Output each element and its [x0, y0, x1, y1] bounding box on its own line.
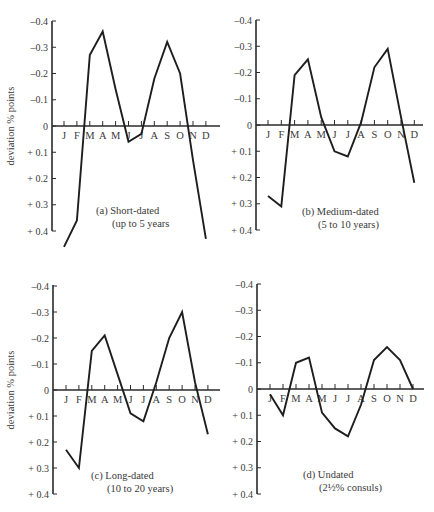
panel-caption-subtitle: (5 to 10 years): [318, 219, 379, 231]
y-tick-label: + 0.3: [27, 199, 48, 210]
y-tick-label: –0.3: [30, 42, 49, 53]
panel-d: –0.4–0.3–0.2–0.10+ 0.1+ 0.2+ 0.3+ 0.4JFM…: [232, 279, 424, 500]
month-label: O: [178, 394, 186, 405]
month-label: M: [291, 393, 301, 404]
y-tick-label: + 0.4: [27, 226, 48, 237]
y-tick-label: –0.4: [235, 279, 254, 290]
month-label: F: [74, 130, 80, 141]
y-tick-label: –0.3: [235, 305, 254, 316]
month-label: S: [371, 129, 377, 140]
y-axis-label: deviation % points: [5, 351, 16, 430]
panel-caption-subtitle: (10 to 20 years): [107, 483, 174, 495]
month-label: J: [62, 130, 66, 141]
y-tick-label: –0.3: [234, 41, 253, 52]
chart-canvas: –0.4–0.3–0.2–0.10+ 0.1+ 0.2+ 0.3+ 0.4JFM…: [0, 0, 434, 512]
month-label: J: [266, 129, 270, 140]
y-tick-label: + 0.3: [28, 463, 49, 474]
y-tick-label: –0.2: [235, 331, 254, 342]
y-tick-label: 0: [43, 121, 48, 132]
y-tick-label: + 0.2: [27, 173, 48, 184]
month-label: M: [317, 129, 327, 140]
y-tick-label: 0: [247, 120, 252, 131]
y-tick-label: + 0.4: [28, 489, 49, 500]
month-label: M: [87, 394, 97, 405]
y-tick-label: –0.3: [31, 307, 50, 318]
month-label: A: [99, 130, 107, 141]
month-label: S: [164, 130, 170, 141]
y-tick-label: –0.2: [31, 333, 50, 344]
y-tick-label: –0.2: [234, 67, 253, 78]
panel-caption: (b) Medium-dated: [302, 206, 379, 218]
month-label: A: [304, 129, 312, 140]
y-tick-label: + 0.1: [231, 146, 252, 157]
panel-b: –0.4–0.3–0.2–0.10+ 0.1+ 0.2+ 0.3+ 0.4JFM…: [231, 15, 423, 236]
y-tick-label: 0: [248, 384, 253, 395]
panel-a: –0.4–0.3–0.2–0.10+ 0.1+ 0.2+ 0.3+ 0.4JFM…: [5, 16, 220, 247]
month-label: A: [101, 394, 109, 405]
y-tick-label: –0.1: [31, 359, 50, 370]
month-label: M: [111, 130, 121, 141]
figure: –0.4–0.3–0.2–0.10+ 0.1+ 0.2+ 0.3+ 0.4JFM…: [0, 0, 434, 512]
y-tick-label: + 0.3: [231, 198, 252, 209]
month-label: J: [333, 393, 337, 404]
month-label: M: [290, 129, 300, 140]
y-tick-label: –0.2: [30, 68, 49, 79]
y-tick-label: –0.1: [235, 357, 254, 368]
month-label: J: [346, 393, 350, 404]
y-tick-label: –0.4: [31, 281, 50, 292]
panel-caption: (d) Undated: [303, 469, 354, 481]
y-tick-label: + 0.2: [28, 437, 49, 448]
y-tick-label: –0.4: [234, 15, 253, 26]
y-tick-label: + 0.4: [231, 225, 252, 236]
month-label: F: [280, 393, 286, 404]
month-label: D: [202, 130, 210, 141]
series-line: [268, 49, 414, 207]
y-tick-label: + 0.2: [232, 436, 253, 447]
month-label: J: [128, 394, 132, 405]
month-label: D: [409, 393, 417, 404]
y-tick-label: + 0.4: [232, 489, 253, 500]
month-label: O: [384, 129, 392, 140]
y-tick-label: + 0.2: [231, 172, 252, 183]
month-label: J: [332, 129, 336, 140]
panel-c: –0.4–0.3–0.2–0.10+ 0.1+ 0.2+ 0.3+ 0.4JFM…: [5, 281, 220, 500]
month-label: J: [141, 394, 145, 405]
month-label: S: [166, 394, 172, 405]
y-tick-label: –0.4: [30, 16, 49, 27]
y-tick-label: + 0.3: [232, 462, 253, 473]
series-line: [270, 347, 413, 436]
panel-caption-subtitle: (2½% consuls): [319, 482, 382, 494]
month-label: S: [371, 393, 377, 404]
month-label: D: [411, 129, 419, 140]
month-label: A: [151, 130, 159, 141]
y-axis-label: deviation % points: [5, 87, 16, 166]
month-label: A: [153, 394, 161, 405]
month-label: M: [85, 130, 95, 141]
panel-caption: (c) Long-dated: [91, 470, 154, 482]
panel-caption: (a) Short-dated: [96, 205, 160, 217]
month-label: F: [278, 129, 284, 140]
y-tick-label: + 0.1: [28, 411, 49, 422]
y-tick-label: + 0.1: [232, 410, 253, 421]
y-tick-label: 0: [44, 385, 49, 396]
panel-caption-subtitle: (up to 5 years: [112, 218, 169, 230]
month-label: M: [113, 394, 123, 405]
month-label: D: [204, 394, 212, 405]
y-tick-label: –0.1: [30, 94, 49, 105]
y-tick-label: + 0.1: [27, 147, 48, 158]
month-label: J: [346, 129, 350, 140]
month-label: J: [64, 394, 68, 405]
month-label: F: [76, 394, 82, 405]
y-tick-label: –0.1: [234, 93, 253, 104]
month-label: O: [176, 130, 184, 141]
month-label: N: [396, 393, 404, 404]
month-label: A: [305, 393, 313, 404]
month-label: O: [383, 393, 391, 404]
